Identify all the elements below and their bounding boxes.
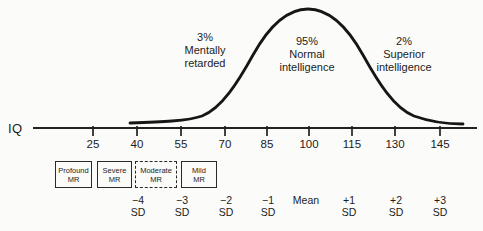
sd-line: SD: [389, 207, 404, 219]
axis-tick-label-70: 70: [219, 138, 232, 150]
sd-marker-mean: Mean: [293, 195, 319, 207]
sd-marker-plus3: +3 SD: [433, 195, 448, 218]
region-percent: 95%: [279, 35, 334, 48]
sd-line: SD: [219, 207, 234, 219]
axis-tick-label-100: 100: [299, 138, 318, 150]
region-text-line: Mentally: [185, 44, 226, 57]
iq-distribution-figure: 3% Mentally retarded 95% Normal intellig…: [0, 0, 483, 231]
sd-line: SD: [175, 207, 190, 219]
sd-line: SD: [433, 207, 448, 219]
box-label-line: Severe: [103, 166, 127, 175]
region-text-line: Normal: [279, 48, 334, 61]
axis-tick-label-115: 115: [343, 138, 361, 150]
region-text-line: retarded: [185, 57, 226, 70]
axis-tick-label-25: 25: [87, 138, 100, 150]
box-label-line: MR: [193, 175, 205, 184]
sd-marker-plus1: +1 SD: [342, 195, 357, 218]
sd-line: −3: [175, 195, 190, 207]
box-label-line: Profound: [58, 166, 88, 175]
sd-line: SD: [131, 207, 146, 219]
axis-tick-label-85: 85: [261, 138, 274, 150]
region-text-line: Superior: [376, 48, 431, 61]
region-percent: 2%: [376, 35, 431, 48]
axis-tick-label-55: 55: [175, 138, 188, 150]
iq-axis-title: IQ: [8, 121, 23, 136]
sd-line: −4: [131, 195, 146, 207]
box-label-line: MR: [68, 175, 80, 184]
box-severe-mr: Severe MR: [97, 161, 132, 188]
box-label-line: MR: [109, 175, 121, 184]
sd-line: +1: [342, 195, 357, 207]
region-text-line: intelligence: [376, 61, 431, 74]
sd-line: SD: [261, 207, 276, 219]
region-percent: 3%: [185, 31, 226, 44]
sd-marker-plus2: +2 SD: [389, 195, 404, 218]
axis-tick-label-130: 130: [385, 138, 404, 150]
region-label-normal-intelligence: 95% Normal intelligence: [279, 35, 334, 74]
region-label-mentally-retarded: 3% Mentally retarded: [185, 31, 226, 70]
region-text-line: intelligence: [279, 61, 334, 74]
sd-line: −2: [219, 195, 234, 207]
sd-line: +3: [433, 195, 448, 207]
sd-marker-minus3: −3 SD: [175, 195, 190, 218]
sd-marker-minus4: −4 SD: [131, 195, 146, 218]
axis-tick-label-145: 145: [430, 138, 449, 150]
box-profound-mr: Profound MR: [55, 161, 92, 188]
sd-line: Mean: [293, 195, 319, 207]
box-moderate-mr: Moderate MR: [135, 161, 177, 188]
region-label-superior-intelligence: 2% Superior intelligence: [376, 35, 431, 74]
sd-marker-minus1: −1 SD: [261, 195, 276, 218]
box-label-line: Mild: [192, 166, 206, 175]
sd-line: +2: [389, 195, 404, 207]
sd-line: −1: [261, 195, 276, 207]
sd-line: SD: [342, 207, 357, 219]
axis-tick-label-40: 40: [131, 138, 144, 150]
box-mild-mr: Mild MR: [181, 161, 217, 188]
sd-marker-minus2: −2 SD: [219, 195, 234, 218]
box-label-line: MR: [150, 175, 162, 184]
box-label-line: Moderate: [140, 166, 172, 175]
